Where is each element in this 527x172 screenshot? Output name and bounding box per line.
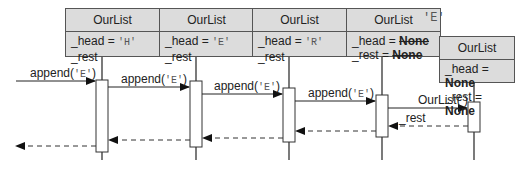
message-constructor: OurList( ): [418, 93, 468, 107]
class-name: OurList: [66, 9, 159, 32]
head-label: _head =: [165, 34, 212, 48]
message-append-1: append('E'): [30, 66, 96, 80]
head-value: 'E': [212, 37, 230, 48]
rest-value-struck: None: [392, 48, 422, 62]
new-head-value: 'E': [423, 11, 445, 25]
ourlist-node-r: OurList _head = 'R' _rest: [252, 8, 347, 57]
message-append-4: append('E'): [308, 86, 374, 100]
head-value: 'R': [305, 37, 323, 48]
head-value-struck: None: [399, 34, 429, 48]
class-name: OurList: [253, 9, 346, 32]
rest-label: _rest =: [352, 48, 392, 62]
head-label: _head =: [445, 62, 489, 76]
head-value: None: [445, 76, 475, 90]
head-label: _head =: [258, 34, 305, 48]
rest-label: _rest: [258, 50, 346, 64]
message-append-2: append('E'): [121, 72, 187, 86]
message-return-rest: _rest: [399, 111, 426, 125]
ourlist-node-h: OurList _head = 'H' _rest: [65, 8, 160, 57]
ourlist-node-new: OurList _head = None _rest = None: [439, 36, 515, 83]
return-arrows: [16, 126, 468, 146]
ourlist-node-e: OurList _head = 'E' _rest: [159, 8, 254, 57]
class-name: OurList: [440, 37, 514, 60]
rest-label: _rest: [71, 50, 159, 64]
class-name: OurList: [160, 9, 253, 32]
head-label: _head =: [71, 34, 118, 48]
head-value: 'H': [118, 37, 136, 48]
head-label: _head =: [352, 34, 399, 48]
message-append-3: append('E'): [214, 79, 280, 93]
rest-label: _rest: [165, 50, 253, 64]
